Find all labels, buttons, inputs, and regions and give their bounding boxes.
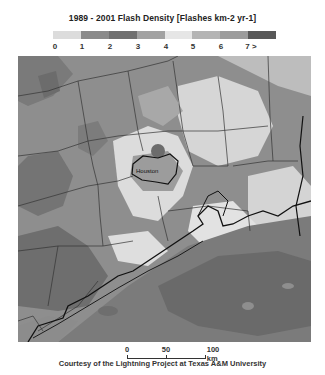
legend-swatch-2: [109, 31, 137, 39]
legend-label: 3: [136, 42, 140, 51]
legend-swatch-0: [53, 31, 81, 39]
legend-swatch-7: [248, 31, 276, 39]
legend-swatch-4: [165, 31, 193, 39]
legend-label: 0: [53, 42, 57, 51]
scale-label: 0: [125, 345, 129, 354]
legend-label: 5: [191, 42, 195, 51]
city-label: Houston: [136, 168, 158, 174]
legend-swatch-5: [192, 31, 220, 39]
flash-density-map: Houston: [18, 56, 311, 342]
legend-label: 1: [80, 42, 84, 51]
legend-label: 4: [164, 42, 168, 51]
legend-swatch-6: [220, 31, 248, 39]
credit-text: Courtesy of the Lightning Project at Tex…: [0, 359, 325, 368]
legend-swatch-3: [137, 31, 165, 39]
map-title: 1989 - 2001 Flash Density [Flashes km-2 …: [0, 13, 325, 23]
legend-label: 7 >: [245, 42, 256, 51]
scale-label: 50: [162, 345, 170, 354]
legend-label: 2: [108, 42, 112, 51]
color-legend: [53, 31, 276, 39]
legend-labels: 0 1 2 3 4 5 6 7 >: [53, 42, 283, 52]
legend-label: 6: [219, 42, 223, 51]
legend-swatch-1: [81, 31, 109, 39]
